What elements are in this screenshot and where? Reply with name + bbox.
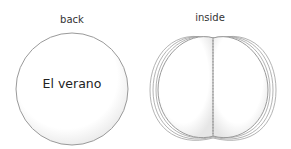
booklet-diagram bbox=[0, 0, 291, 149]
back-cover-title: El verano bbox=[22, 76, 122, 91]
back-label: back bbox=[50, 14, 94, 25]
inside-label: inside bbox=[180, 12, 240, 23]
